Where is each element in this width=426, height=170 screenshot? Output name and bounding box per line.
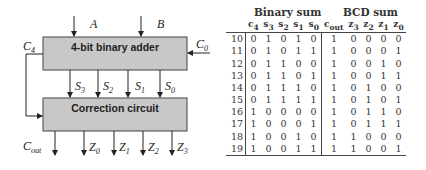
table-cell: 1 bbox=[261, 45, 276, 57]
row-index: 14 bbox=[226, 82, 246, 94]
header-c4: c4 bbox=[246, 19, 262, 32]
table-cell: 0 bbox=[261, 106, 276, 118]
table-cell: 0 bbox=[376, 32, 391, 45]
group-header-binary: Binary sum bbox=[254, 6, 321, 18]
table-cell: 0 bbox=[346, 106, 361, 118]
table-cell: 1 bbox=[291, 142, 306, 155]
header-s0: s0 bbox=[306, 19, 322, 32]
table-row: 191001111001 bbox=[226, 142, 406, 155]
table-cell: 1 bbox=[306, 45, 322, 57]
row-index: 15 bbox=[226, 94, 246, 106]
label-s0: S0 bbox=[165, 80, 175, 95]
table-cell: 1 bbox=[391, 118, 406, 130]
header-z3: z3 bbox=[346, 19, 361, 32]
table-cell: 1 bbox=[261, 57, 276, 69]
table-row: 100101010000 bbox=[226, 32, 406, 45]
table-cell: 1 bbox=[322, 82, 347, 94]
table-cell: 1 bbox=[276, 82, 291, 94]
table-cell: 1 bbox=[346, 142, 361, 155]
table-row: 140111010100 bbox=[226, 82, 406, 94]
header-z0: z0 bbox=[391, 19, 406, 32]
table-cell: 0 bbox=[346, 57, 361, 69]
table-cell: 0 bbox=[361, 32, 376, 45]
header-cout: cout bbox=[322, 19, 347, 32]
table-cell: 1 bbox=[322, 69, 347, 81]
table-row: 181001011000 bbox=[226, 130, 406, 142]
table-cell: 0 bbox=[361, 130, 376, 142]
header-index bbox=[226, 19, 246, 32]
table-cell: 1 bbox=[361, 94, 376, 106]
table-cell: 0 bbox=[391, 106, 406, 118]
group-header-bcd: BCD sum bbox=[343, 6, 398, 18]
table-cell: 1 bbox=[306, 94, 322, 106]
table-cell: 0 bbox=[246, 94, 262, 106]
table-cell: 1 bbox=[391, 142, 406, 155]
table-cell: 1 bbox=[322, 94, 347, 106]
label-s2: S2 bbox=[103, 80, 113, 95]
table-cell: 1 bbox=[246, 118, 262, 130]
table-cell: 0 bbox=[306, 130, 322, 142]
table-cell: 1 bbox=[391, 69, 406, 81]
row-index: 11 bbox=[226, 45, 246, 57]
table-row: 110101110001 bbox=[226, 45, 406, 57]
table-cell: 1 bbox=[306, 69, 322, 81]
label-z1: Z1 bbox=[119, 141, 130, 156]
table-cell: 1 bbox=[376, 57, 391, 69]
table-cell: 0 bbox=[391, 82, 406, 94]
bcd-adder-diagram: 4-bit binary adder Correction circuit A … bbox=[0, 0, 213, 170]
header-s3: s3 bbox=[261, 19, 276, 32]
bcd-table: c4 s3 s2 s1 s0 cout z3 z2 z1 z0 10010101… bbox=[226, 19, 406, 156]
table-cell: 1 bbox=[376, 69, 391, 81]
table-cell: 1 bbox=[261, 32, 276, 45]
row-index: 13 bbox=[226, 69, 246, 81]
label-z2: Z2 bbox=[148, 141, 159, 156]
table-row: 130110110011 bbox=[226, 69, 406, 81]
table-cell: 0 bbox=[246, 82, 262, 94]
table-cell: 1 bbox=[291, 45, 306, 57]
table-cell: 1 bbox=[276, 69, 291, 81]
table-cell: 1 bbox=[322, 45, 347, 57]
table-cell: 1 bbox=[322, 130, 347, 142]
carry-c4-line bbox=[26, 54, 43, 116]
table-cell: 0 bbox=[276, 118, 291, 130]
table-cell: 0 bbox=[346, 118, 361, 130]
table-cell: 1 bbox=[322, 106, 347, 118]
table-cell: 0 bbox=[376, 82, 391, 94]
table-row: 120110010010 bbox=[226, 57, 406, 69]
header-s2: s2 bbox=[276, 19, 291, 32]
table-cell: 0 bbox=[376, 142, 391, 155]
table-cell: 0 bbox=[291, 57, 306, 69]
table-cell: 0 bbox=[246, 69, 262, 81]
table-cell: 0 bbox=[291, 69, 306, 81]
table-cell: 0 bbox=[306, 82, 322, 94]
table-cell: 1 bbox=[322, 142, 347, 155]
table-cell: 1 bbox=[376, 118, 391, 130]
table-cell: 0 bbox=[306, 57, 322, 69]
table-cell: 0 bbox=[276, 45, 291, 57]
row-index: 10 bbox=[226, 32, 246, 45]
table-cell: 0 bbox=[276, 106, 291, 118]
table-cell: 1 bbox=[361, 82, 376, 94]
table-cell: 0 bbox=[376, 94, 391, 106]
table-cell: 1 bbox=[322, 32, 347, 45]
table-cell: 1 bbox=[291, 130, 306, 142]
table-cell: 1 bbox=[276, 57, 291, 69]
label-cout: Cout bbox=[23, 140, 41, 155]
table-row: 161000010110 bbox=[226, 106, 406, 118]
label-c0: C0 bbox=[196, 38, 208, 53]
table-cell: 1 bbox=[361, 118, 376, 130]
table-cell: 1 bbox=[276, 94, 291, 106]
table-cell: 1 bbox=[291, 94, 306, 106]
label-z3: Z3 bbox=[177, 141, 188, 156]
table-cell: 0 bbox=[246, 32, 262, 45]
table-cell: 0 bbox=[361, 57, 376, 69]
table-cell: 0 bbox=[361, 45, 376, 57]
table-cell: 0 bbox=[276, 142, 291, 155]
table-cell: 0 bbox=[391, 130, 406, 142]
table-cell: 0 bbox=[376, 45, 391, 57]
row-index: 19 bbox=[226, 142, 246, 155]
table-cell: 0 bbox=[261, 130, 276, 142]
table-cell: 1 bbox=[261, 82, 276, 94]
table-cell: 0 bbox=[306, 32, 322, 45]
label-s1: S1 bbox=[135, 80, 145, 95]
